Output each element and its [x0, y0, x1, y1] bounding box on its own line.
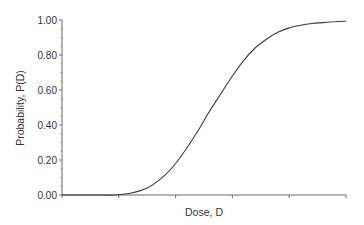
y-tick-label: 1.00: [38, 15, 58, 26]
y-tick-label: 0.00: [38, 190, 58, 201]
probability-curve: [62, 21, 346, 195]
y-axis-title: Probability, P(D): [14, 70, 26, 146]
y-tick-label: 0.40: [38, 120, 58, 131]
y-tick-label: 0.20: [38, 155, 58, 166]
y-tick-label: 0.60: [38, 85, 58, 96]
y-tick-label: 0.80: [38, 50, 58, 61]
x-axis-title: Dose, D: [185, 206, 223, 218]
y-axis: 0.000.200.400.600.801.00: [38, 15, 62, 201]
dose-response-chart: 0.000.200.400.600.801.00 Probability, P(…: [0, 0, 364, 225]
